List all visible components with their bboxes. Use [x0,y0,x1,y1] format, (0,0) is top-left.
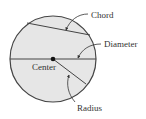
chord-label: Chord [91,10,114,20]
diameter-label: Diameter [104,39,137,49]
center-point [51,57,56,62]
radius-label: Radius [77,103,102,113]
circle-diagram: Chord Diameter Center Radius [0,0,146,119]
center-label: Center [32,62,56,72]
